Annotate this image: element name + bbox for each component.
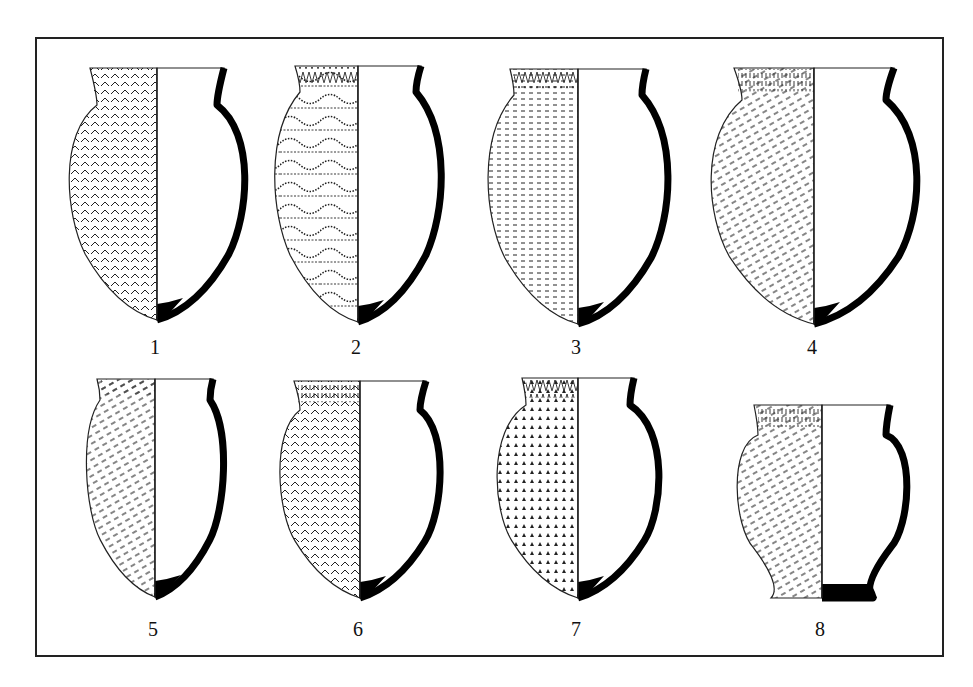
vessel-1 xyxy=(69,68,245,320)
rim-band-decoration xyxy=(738,69,814,91)
vessel-section-interior xyxy=(822,405,907,598)
pottery-plate xyxy=(0,0,973,687)
vessel-7 xyxy=(497,378,659,598)
vessel-exterior-decoration xyxy=(737,405,822,598)
rim-band-decoration xyxy=(298,382,360,402)
vessel-number-label: 7 xyxy=(571,618,581,641)
vessel-exterior-decoration xyxy=(280,381,360,598)
rim-band-decoration xyxy=(94,69,157,95)
rim-band-decoration xyxy=(758,406,822,427)
vessel-6 xyxy=(280,381,440,598)
vessel-number-label: 8 xyxy=(815,618,825,641)
vessel-base-section xyxy=(822,584,877,598)
vessel-8 xyxy=(737,405,907,598)
vessel-exterior-decoration xyxy=(69,68,157,320)
rim-band-decoration xyxy=(514,70,578,88)
vessel-3 xyxy=(488,69,668,324)
vessel-section-interior xyxy=(578,378,659,598)
vessel-2 xyxy=(275,66,442,322)
vessel-exterior-decoration xyxy=(711,68,814,324)
vessel-exterior-decoration xyxy=(497,378,578,598)
vessel-exterior-decoration xyxy=(275,66,358,322)
rim-band-decoration xyxy=(101,380,155,395)
rim-band-decoration xyxy=(299,67,358,85)
vessel-number-label: 4 xyxy=(807,336,817,359)
vessel-section-interior xyxy=(157,68,245,320)
vessel-4 xyxy=(711,68,917,324)
rim-band-decoration xyxy=(526,379,578,398)
vessel-exterior-decoration xyxy=(488,69,578,324)
vessel-number-label: 6 xyxy=(353,618,363,641)
vessel-number-label: 3 xyxy=(571,336,581,359)
vessel-exterior-decoration xyxy=(86,379,155,597)
vessel-number-label: 5 xyxy=(148,618,158,641)
vessel-section-interior xyxy=(814,68,917,324)
vessel-5 xyxy=(86,379,223,597)
vessel-number-label: 1 xyxy=(150,336,160,359)
vessel-number-label: 2 xyxy=(351,336,361,359)
